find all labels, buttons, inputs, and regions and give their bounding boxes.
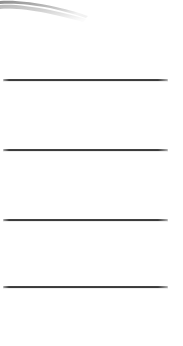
rule-left-taper	[3, 286, 9, 288]
rule-left-taper	[3, 219, 9, 221]
horizontal-rule	[3, 219, 168, 221]
rule-left-taper	[3, 149, 9, 151]
rule-right-taper	[158, 286, 168, 288]
scan-shadow-icon	[0, 0, 92, 26]
horizontal-rule	[3, 286, 168, 288]
scan-shadow-artifact	[0, 0, 92, 26]
horizontal-rule	[3, 79, 168, 81]
rule-right-taper	[158, 79, 168, 81]
rule-left-taper	[3, 79, 9, 81]
rule-right-taper	[158, 219, 168, 221]
document-page	[0, 0, 183, 346]
rule-right-taper	[158, 149, 168, 151]
horizontal-rule	[3, 149, 168, 151]
